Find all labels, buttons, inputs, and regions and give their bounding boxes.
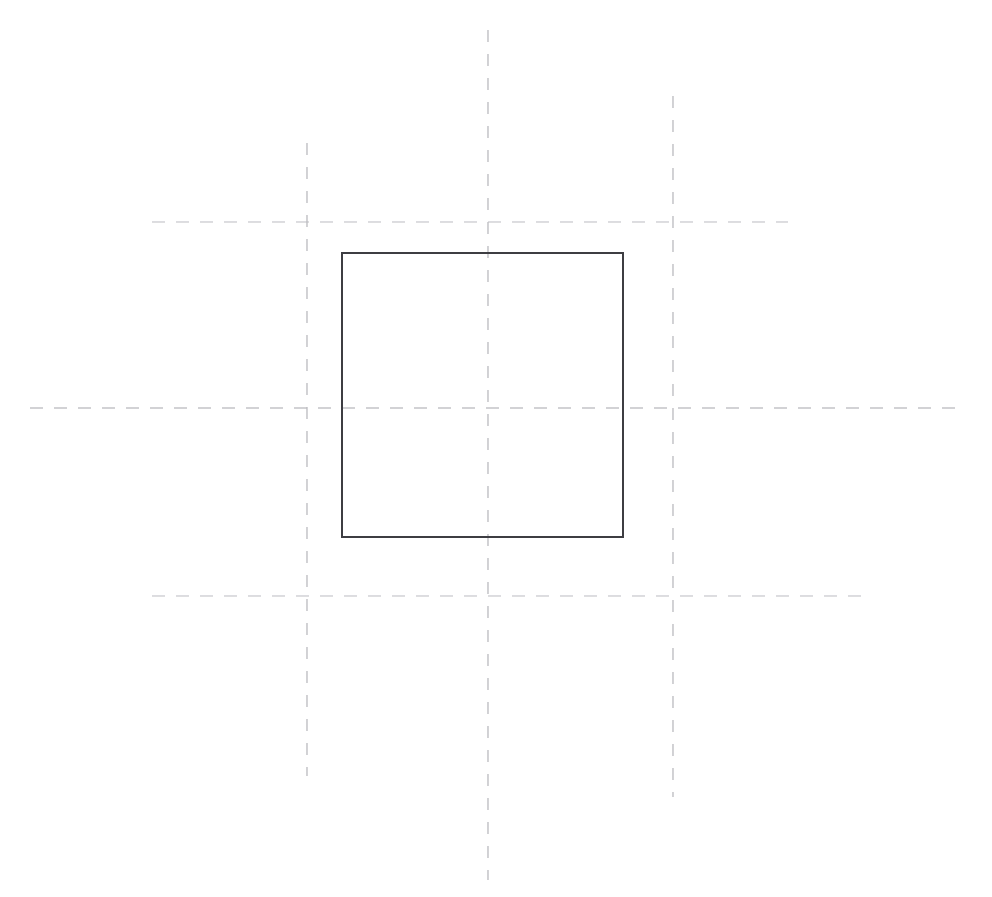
technical-drawing-svg	[0, 0, 992, 897]
drawing-canvas	[0, 0, 992, 897]
canvas-background	[0, 0, 992, 897]
